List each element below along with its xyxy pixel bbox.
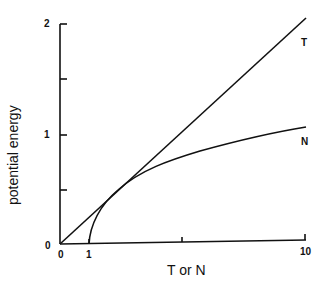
x-tick-10: 10 <box>300 246 311 257</box>
series-t-label: T <box>301 37 307 48</box>
y-tick-0: 0 <box>45 240 51 251</box>
series-t-line <box>60 18 306 244</box>
chart: potential energy T or N 2 1 0 0 1 10 T N <box>0 0 325 292</box>
y-tick-1: 1 <box>44 129 50 140</box>
series-n-curve <box>89 127 306 244</box>
y-tick-2: 2 <box>44 18 50 29</box>
y-axis-label: potential energy <box>5 105 21 205</box>
x-axis-label: T or N <box>167 262 206 278</box>
x-tick-1: 1 <box>86 249 92 260</box>
x-tick-0: 0 <box>58 249 64 260</box>
series-n-label: N <box>301 136 308 147</box>
x-axis <box>60 240 306 244</box>
